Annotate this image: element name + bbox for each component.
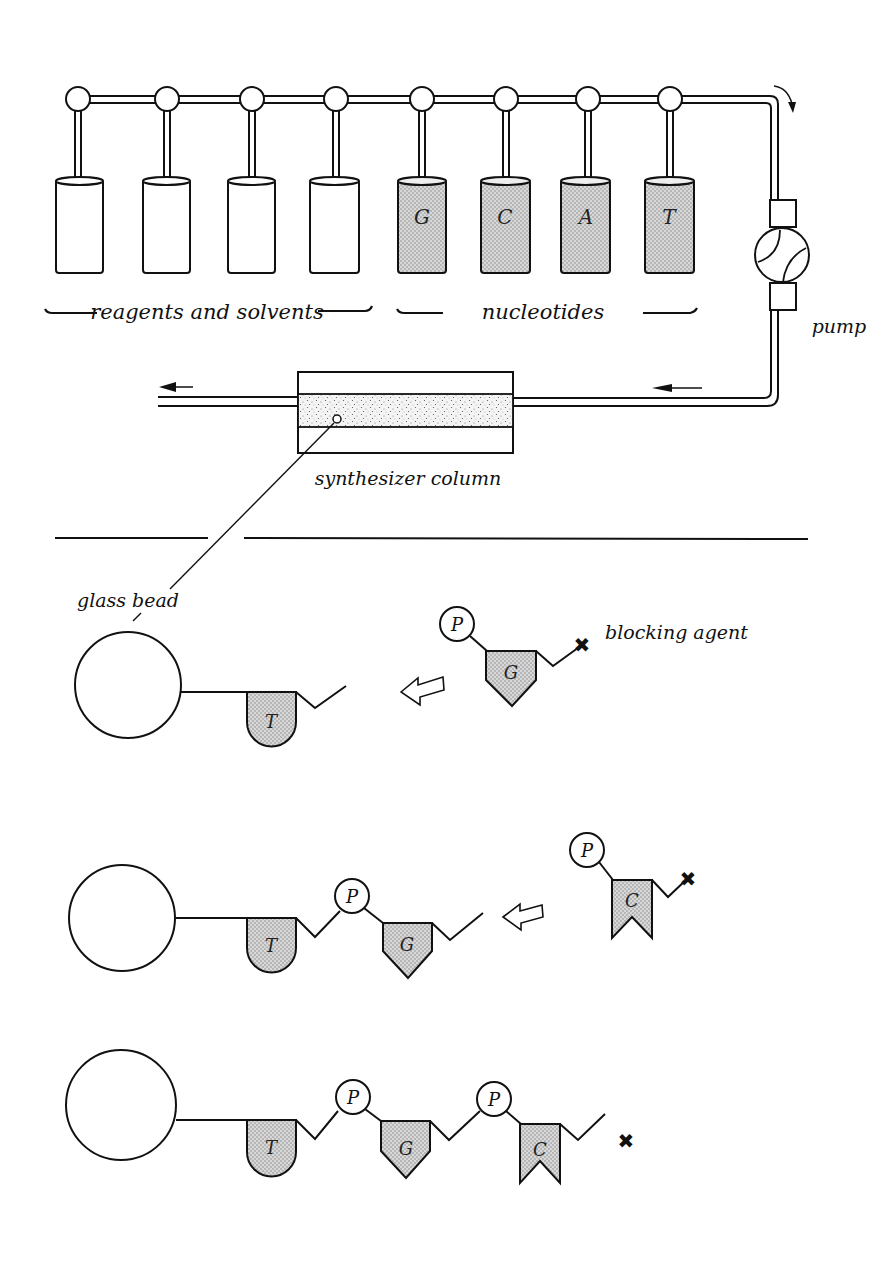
synthesizer-apparatus: G C A bbox=[45, 86, 809, 589]
base-letter: T bbox=[265, 711, 279, 732]
section-divider bbox=[55, 538, 808, 539]
synthesizer-column bbox=[298, 372, 513, 453]
glass-bead bbox=[75, 632, 181, 738]
step-2: ✖ bbox=[69, 833, 696, 978]
phosphate-label: P bbox=[580, 840, 594, 861]
phosphate-label: P bbox=[450, 614, 464, 635]
reservoir-nucleotide-c: C bbox=[481, 87, 530, 273]
reservoir-row: G C A bbox=[56, 87, 694, 273]
reservoir-label: C bbox=[497, 205, 512, 229]
reservoir-label: G bbox=[414, 205, 430, 229]
return-pipe bbox=[513, 310, 778, 406]
glass-bead bbox=[69, 865, 175, 971]
diagram-canvas: G C A bbox=[0, 0, 896, 1284]
bead-label-tick bbox=[133, 613, 141, 621]
nucleotides-label: nucleotides bbox=[482, 300, 605, 324]
base-letter: G bbox=[504, 662, 518, 683]
addition-arrow-icon bbox=[503, 904, 543, 930]
reagents-label: reagents and solvents bbox=[90, 300, 324, 324]
base-letter: G bbox=[399, 1138, 413, 1159]
base-letter: C bbox=[533, 1139, 547, 1160]
reservoir-label: T bbox=[662, 205, 677, 229]
blocking-agent-icon: ✖ bbox=[618, 1129, 635, 1153]
blocking-agent-icon: ✖ bbox=[574, 633, 591, 657]
blocking-agent-label: blocking agent bbox=[605, 621, 748, 643]
base-letter: T bbox=[265, 1137, 279, 1158]
reservoir-label: A bbox=[577, 205, 593, 229]
phosphate-label: P bbox=[345, 886, 359, 907]
phosphate-label: P bbox=[346, 1087, 360, 1108]
column-label: synthesizer column bbox=[315, 467, 502, 489]
bead-marker-icon bbox=[333, 415, 341, 423]
reservoir-reagent-4 bbox=[310, 87, 359, 273]
base-letter: T bbox=[265, 935, 279, 956]
flow-arrow-left-icon bbox=[652, 384, 702, 392]
phosphate-label: P bbox=[487, 1089, 501, 1110]
synthesis-steps: ✖ ✖ bbox=[66, 607, 696, 1183]
glass-bead bbox=[66, 1050, 176, 1160]
outlet-pipe bbox=[158, 397, 298, 406]
reservoir-reagent-2 bbox=[143, 87, 190, 273]
addition-arrow-icon bbox=[401, 677, 444, 705]
base-letter: G bbox=[400, 934, 414, 955]
pump-label: pump bbox=[812, 315, 867, 337]
glass-bead-label: glass bead bbox=[77, 589, 179, 611]
reservoir-reagent-3 bbox=[228, 87, 275, 273]
reservoir-nucleotide-g: G bbox=[398, 87, 446, 273]
reservoir-nucleotide-a: A bbox=[561, 87, 610, 273]
reservoir-reagent-1 bbox=[56, 87, 103, 273]
base-letter: C bbox=[625, 890, 639, 911]
bead-leader-line bbox=[170, 423, 334, 589]
step-3: ✖ bbox=[66, 1050, 634, 1183]
pump bbox=[755, 200, 809, 310]
reservoir-nucleotide-t: T bbox=[645, 87, 694, 273]
flow-arrow-out-icon bbox=[159, 382, 193, 392]
blocking-agent-icon: ✖ bbox=[680, 867, 697, 891]
